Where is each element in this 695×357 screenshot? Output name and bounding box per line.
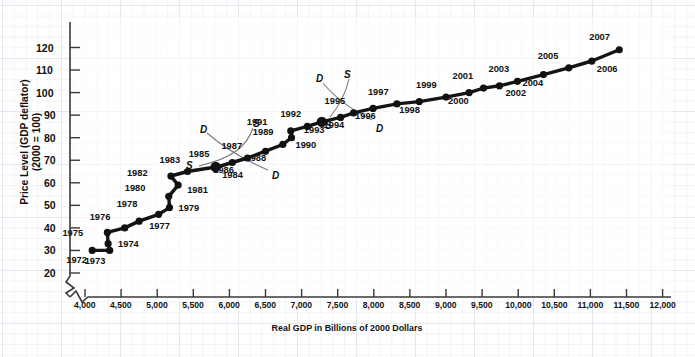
y-tick-label-20: 20 [44, 267, 56, 279]
data-point-2007[interactable] [616, 46, 623, 53]
data-point-label-1990: 1990 [295, 140, 316, 150]
x-tick-label-6,500: 6,500 [255, 300, 277, 310]
data-point-label-1997: 1997 [368, 87, 389, 97]
supply-curve-label-1985-upper: S [253, 118, 260, 129]
data-point-label-2000: 2000 [448, 96, 469, 106]
y-tick-label-90: 90 [44, 109, 56, 121]
demand-curve-label-1985-left: D [200, 124, 207, 135]
chart-root: Price Level (GDP deflator) (2000 = 100) … [0, 0, 695, 357]
x-tick-label-7,500: 7,500 [327, 300, 349, 310]
data-point-label-1975: 1975 [62, 228, 83, 238]
data-point-label-1993: 1993 [304, 125, 325, 135]
x-tick-label-10,000: 10,000 [505, 300, 531, 310]
data-point-label-2006: 2006 [597, 64, 618, 74]
y-tick-label-110: 110 [36, 64, 53, 76]
data-point-2001[interactable] [480, 84, 487, 91]
data-point-label-1988: 1988 [246, 153, 267, 163]
x-tick-label-4,500: 4,500 [110, 300, 132, 310]
data-point-label-1980: 1980 [125, 183, 146, 193]
data-point-label-1985: 1985 [189, 149, 210, 159]
x-tick-label-5,500: 5,500 [182, 300, 204, 310]
data-point-1973[interactable] [106, 247, 113, 254]
data-point-1979[interactable] [166, 204, 173, 211]
supply-curve-label-1985-lower: S [186, 160, 193, 171]
data-point-label-1996: 1996 [355, 111, 376, 121]
x-tick-label-9,000: 9,000 [435, 300, 457, 310]
x-tick-label-12,000: 12,000 [650, 300, 676, 310]
data-point-1977[interactable] [136, 218, 143, 225]
data-point-label-1976: 1976 [90, 212, 111, 222]
x-tick-label-6,000: 6,000 [218, 300, 240, 310]
data-point-label-2004: 2004 [522, 78, 543, 88]
data-point-label-1998: 1998 [399, 105, 420, 115]
y-tick-label-40: 40 [44, 222, 56, 234]
data-point-label-1983: 1983 [160, 155, 181, 165]
data-point-1975[interactable] [104, 229, 111, 236]
data-point-label-2002: 2002 [505, 88, 526, 98]
data-point-2006[interactable] [588, 57, 595, 64]
demand-curve-label-1993-right: D [376, 123, 383, 134]
data-point-label-2005: 2005 [538, 51, 559, 61]
x-axis-title: Real GDP in Billions of 2000 Dollars [232, 323, 462, 333]
y-tick-label-50: 50 [44, 199, 56, 211]
data-point-label-1973: 1973 [85, 256, 106, 266]
data-point-1980[interactable] [165, 193, 172, 200]
x-tick-label-11,000: 11,000 [577, 300, 603, 310]
y-axis-title-line1: Price Level (GDP deflator) [19, 79, 30, 205]
data-point-1981[interactable] [175, 181, 182, 188]
y-tick-label-60: 60 [44, 177, 56, 189]
data-point-1976[interactable] [121, 224, 128, 231]
data-point-label-1995: 1995 [325, 96, 346, 106]
data-point-2002[interactable] [496, 82, 503, 89]
x-tick-label-4,000: 4,000 [74, 300, 96, 310]
y-tick-label-100: 100 [36, 87, 54, 99]
demand-curve-label-1985-right: D [272, 170, 279, 181]
supply-demand-curves [199, 79, 372, 170]
supply-curve-label-1993-lower: S [325, 120, 332, 131]
x-tick-label-8,500: 8,500 [399, 300, 421, 310]
data-point-label-1977: 1977 [149, 221, 170, 231]
data-point-label-1979: 1979 [178, 203, 199, 213]
data-point-1990[interactable] [288, 134, 295, 141]
x-tick-label-11,500: 11,500 [614, 300, 640, 310]
data-point-label-2001: 2001 [453, 71, 474, 81]
data-point-label-2007: 2007 [589, 32, 610, 42]
y-tick-label-30: 30 [44, 244, 56, 256]
data-point-1978[interactable] [155, 211, 162, 218]
y-tick-label-80: 80 [44, 132, 56, 144]
data-point-1974[interactable] [105, 240, 112, 247]
y-tick-label-120: 120 [36, 42, 54, 54]
data-point-1989[interactable] [279, 141, 286, 148]
data-point-label-1986: 1986 [213, 165, 234, 175]
data-point-2005[interactable] [565, 64, 572, 71]
data-point-label-1982: 1982 [127, 168, 148, 178]
data-point-label-1978: 1978 [117, 199, 138, 209]
x-tick-label-10,500: 10,500 [541, 300, 567, 310]
x-tick-label-7,000: 7,000 [291, 300, 313, 310]
data-point-1982[interactable] [167, 172, 174, 179]
data-point-1991[interactable] [287, 127, 294, 134]
data-point-1972[interactable] [89, 247, 96, 254]
data-point-label-1999: 1999 [416, 80, 437, 90]
data-point-2003[interactable] [514, 78, 521, 85]
x-tick-label-5,000: 5,000 [146, 300, 168, 310]
supply-curve-label-1993-upper: S [344, 69, 351, 80]
x-tick-label-8,000: 8,000 [363, 300, 385, 310]
y-tick-label-70: 70 [44, 154, 56, 166]
data-point-label-1987: 1987 [221, 141, 242, 151]
y-axis-title-line2: (2000 = 100) [31, 113, 42, 171]
data-point-label-1974: 1974 [118, 239, 139, 249]
demand-curve-label-1993-left: D [316, 73, 323, 84]
y-axis-ticks [70, 48, 80, 274]
x-axis-ticks [85, 289, 663, 297]
data-point-label-1992: 1992 [280, 109, 301, 119]
x-tick-label-9,500: 9,500 [471, 300, 493, 310]
data-point-label-2003: 2003 [488, 64, 509, 74]
data-point-label-1981: 1981 [187, 185, 208, 195]
